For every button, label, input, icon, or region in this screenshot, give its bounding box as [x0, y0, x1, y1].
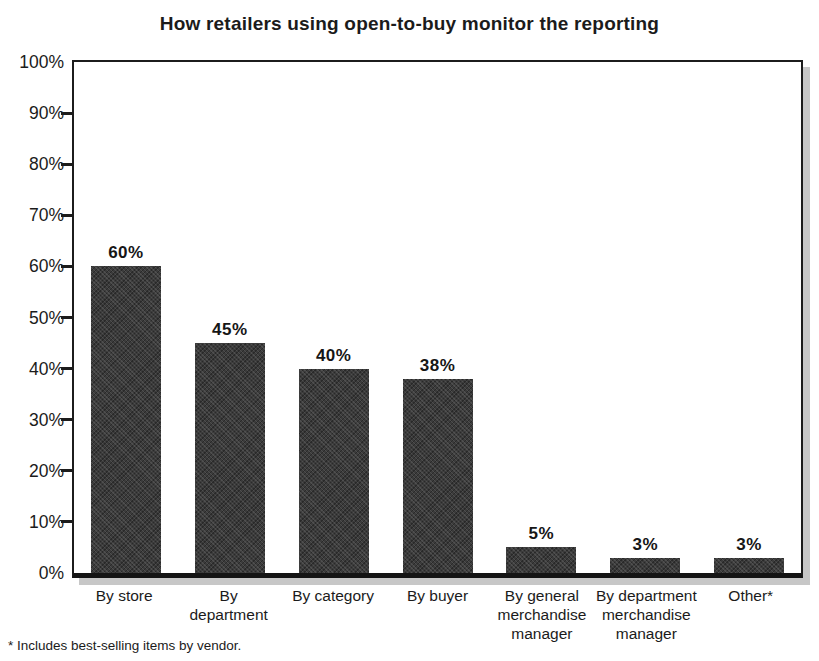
- x-axis-label: By category: [281, 586, 385, 643]
- x-axis-label: By store: [72, 586, 176, 643]
- chart-title: How retailers using open-to-buy monitor …: [0, 13, 819, 35]
- bar-value-label: 60%: [108, 243, 144, 263]
- chart-footnote: * Includes best-selling items by vendor.: [8, 638, 241, 653]
- x-axis-label: By buyer: [385, 586, 489, 643]
- bar-value-label: 3%: [632, 535, 658, 555]
- bar-value-label: 38%: [420, 356, 456, 376]
- bar-value-label: 45%: [212, 320, 248, 340]
- x-axis: By storeBy departmentBy categoryBy buyer…: [72, 586, 803, 643]
- y-axis-tick-label: 60%: [0, 255, 64, 277]
- y-axis-tick-label: 20%: [0, 460, 64, 482]
- y-axis-tick: [61, 214, 72, 217]
- bar: [610, 558, 680, 573]
- bar-value-label: 5%: [529, 524, 555, 544]
- bar-slot: 3%: [593, 535, 697, 573]
- bar-slot: 38%: [386, 356, 490, 573]
- y-axis-tick: [61, 520, 72, 523]
- y-axis-tick-label: 40%: [0, 358, 64, 380]
- y-axis-tick: [61, 163, 72, 166]
- y-axis-tick: [61, 418, 72, 421]
- bar: [299, 369, 369, 573]
- bar-slot: 45%: [178, 320, 282, 573]
- x-axis-label: By department merchandise manager: [594, 586, 698, 643]
- y-axis-tick: [61, 112, 72, 115]
- y-axis-tick-label: 70%: [0, 204, 64, 226]
- y-axis-tick-label: 80%: [0, 153, 64, 175]
- y-axis-tick: [61, 265, 72, 268]
- y-axis-tick-label: 0%: [0, 562, 64, 584]
- x-axis-label: By department: [176, 586, 280, 643]
- y-axis-tick: [61, 469, 72, 472]
- y-axis-tick: [61, 316, 72, 319]
- y-axis-tick: [61, 367, 72, 370]
- bar-slot: 40%: [282, 346, 386, 573]
- bar-slot: 5%: [489, 524, 593, 573]
- bars-row: 60%45%40%38%5%3%3%: [74, 62, 801, 573]
- chart: How retailers using open-to-buy monitor …: [0, 0, 819, 661]
- bar-slot: 3%: [697, 535, 801, 573]
- bar: [506, 547, 576, 573]
- bar: [403, 379, 473, 573]
- x-axis-label: Other*: [699, 586, 803, 643]
- bar-value-label: 3%: [736, 535, 762, 555]
- bar: [91, 266, 161, 573]
- bar-value-label: 40%: [316, 346, 352, 366]
- plot-area: 60%45%40%38%5%3%3%: [72, 60, 803, 578]
- y-axis-tick-label: 90%: [0, 102, 64, 124]
- x-axis-label: By general merchandise manager: [490, 586, 594, 643]
- bar: [195, 343, 265, 573]
- y-axis-tick-label: 100%: [0, 51, 64, 73]
- bar-slot: 60%: [74, 243, 178, 573]
- y-axis-tick-label: 30%: [0, 409, 64, 431]
- y-axis-tick-label: 10%: [0, 511, 64, 533]
- bar: [714, 558, 784, 573]
- y-axis-tick-label: 50%: [0, 307, 64, 329]
